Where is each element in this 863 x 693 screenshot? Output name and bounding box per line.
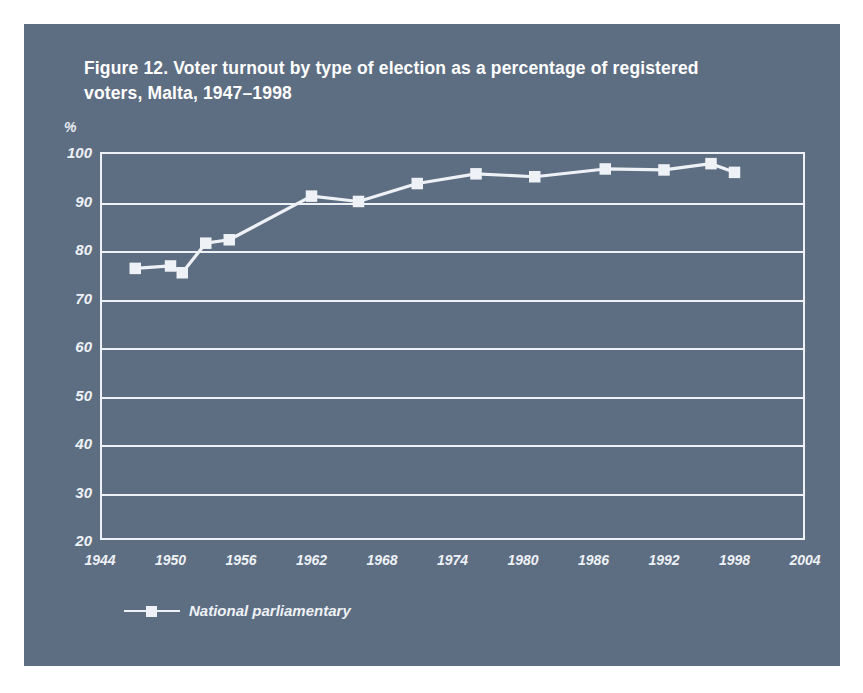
data-point-1992	[658, 164, 670, 176]
data-point-1962	[306, 190, 318, 202]
series-markers	[130, 158, 741, 279]
x-tick-label-1968: 1968	[366, 552, 397, 568]
data-point-1996	[705, 158, 717, 170]
y-tick-label-100: 100	[48, 144, 92, 161]
x-tick-label-1962: 1962	[296, 552, 327, 568]
x-tick-label-1956: 1956	[225, 552, 256, 568]
legend-swatch-national-parliamentary	[124, 604, 180, 618]
y-tick-label-20: 20	[48, 532, 92, 549]
x-axis-tick-labels: 1944195019561962196819741980198619921998…	[100, 552, 805, 574]
y-axis-tick-labels: 2030405060708090100	[36, 152, 92, 540]
data-point-1953	[200, 237, 212, 249]
y-tick-label-90: 90	[48, 192, 92, 209]
chart-legend: National parliamentary	[124, 602, 351, 619]
data-point-1966	[353, 196, 365, 208]
y-tick-label-50: 50	[48, 386, 92, 403]
data-point-1950	[165, 260, 177, 272]
legend-label-national-parliamentary: National parliamentary	[189, 602, 351, 619]
figure-panel: Figure 12. Voter turnout by type of elec…	[24, 24, 840, 666]
x-tick-label-1950: 1950	[155, 552, 186, 568]
data-point-1976	[470, 168, 482, 180]
x-tick-label-1998: 1998	[719, 552, 750, 568]
y-tick-label-80: 80	[48, 241, 92, 258]
x-tick-label-1944: 1944	[84, 552, 115, 568]
y-tick-label-60: 60	[48, 338, 92, 355]
data-point-1971	[412, 178, 424, 190]
figure-title: Figure 12. Voter turnout by type of elec…	[84, 56, 734, 106]
x-tick-label-1986: 1986	[578, 552, 609, 568]
y-tick-label-70: 70	[48, 289, 92, 306]
data-point-1947	[130, 263, 142, 275]
x-tick-label-1980: 1980	[507, 552, 538, 568]
data-point-1951	[177, 267, 189, 279]
data-point-1987	[600, 163, 612, 175]
x-tick-label-1992: 1992	[648, 552, 679, 568]
y-axis-unit-label: %	[64, 119, 76, 135]
x-tick-label-1974: 1974	[437, 552, 468, 568]
series-line	[135, 164, 734, 273]
legend-marker-square	[146, 606, 157, 617]
x-tick-label-2004: 2004	[789, 552, 820, 568]
series-national-parliamentary	[100, 152, 805, 540]
data-point-1981	[529, 171, 541, 183]
data-point-1955	[224, 234, 236, 246]
y-tick-label-30: 30	[48, 483, 92, 500]
data-point-1998	[729, 167, 741, 179]
y-tick-label-40: 40	[48, 435, 92, 452]
